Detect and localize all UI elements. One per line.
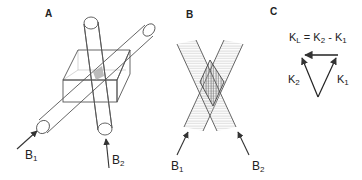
diagram-canvas xyxy=(0,0,362,180)
k-2-vector xyxy=(302,58,318,97)
panel-a-beam-b2-label: B2 xyxy=(112,153,124,168)
vector-k1-label: K1 xyxy=(337,73,349,87)
k-1-vector xyxy=(318,58,336,97)
vector-k2-label: K2 xyxy=(288,73,300,87)
panel-b-label: B xyxy=(186,9,193,20)
beam-b2-arrow xyxy=(106,139,109,168)
panel-c-illustration xyxy=(302,55,338,97)
panel-a-illustration xyxy=(17,17,157,168)
beam-b2-arrow xyxy=(238,132,249,155)
beam-b1-arrow xyxy=(177,132,188,155)
panel-c-label: C xyxy=(270,6,277,17)
panel-b-beam-b2-label: B2 xyxy=(252,159,264,174)
overlap-region xyxy=(93,66,104,80)
panel-a-label: A xyxy=(45,8,52,19)
vector-equation: KL = K2 - K1 xyxy=(289,31,347,45)
panel-b-beam-b1-label: B1 xyxy=(171,159,183,174)
panel-a-beam-b1-label: B1 xyxy=(25,148,37,163)
panel-b-illustration xyxy=(177,40,249,155)
beam-b1-arrow xyxy=(17,131,37,149)
